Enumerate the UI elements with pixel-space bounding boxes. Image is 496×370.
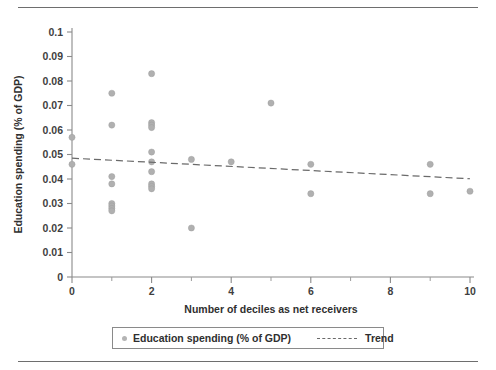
data-point xyxy=(228,159,234,165)
data-point xyxy=(427,191,433,197)
data-point xyxy=(427,161,433,167)
legend-item-education-spending: Education spending (% of GDP) xyxy=(122,328,291,348)
data-point xyxy=(188,156,194,162)
x-tick-label: 2 xyxy=(149,285,155,297)
data-point xyxy=(109,208,115,214)
y-tick-label: 0.04 xyxy=(43,173,64,185)
data-point xyxy=(109,90,115,96)
data-point xyxy=(149,186,155,192)
y-tick-label: 0.09 xyxy=(43,50,64,62)
figure-container: 00.010.020.030.040.050.060.070.080.090.1… xyxy=(0,0,496,370)
y-tick-label: 0 xyxy=(57,271,63,283)
x-tick-label: 10 xyxy=(464,285,476,297)
data-point xyxy=(69,134,75,140)
y-tick-label: 0.1 xyxy=(48,26,63,38)
legend-dot-marker-icon xyxy=(122,336,127,341)
data-point xyxy=(69,161,75,167)
y-tick-label: 0.02 xyxy=(43,222,64,234)
legend-label-education-spending: Education spending (% of GDP) xyxy=(133,332,291,344)
data-point xyxy=(149,71,155,77)
y-tick-label: 0.07 xyxy=(43,99,64,111)
y-axis-title: Education spending (% of GDP) xyxy=(12,75,24,233)
data-point xyxy=(268,100,274,106)
trend-line-layer xyxy=(72,158,470,179)
y-tick-label: 0.08 xyxy=(43,75,64,87)
data-points-layer xyxy=(69,71,473,232)
y-tick-label: 0.06 xyxy=(43,124,64,136)
data-point xyxy=(149,124,155,130)
y-tick-label: 0.03 xyxy=(43,197,64,209)
data-point xyxy=(109,122,115,128)
data-point xyxy=(149,169,155,175)
x-axis-title: Number of deciles as net receivers xyxy=(184,303,357,315)
x-tick-label: 0 xyxy=(69,285,75,297)
chart-legend: Education spending (% of GDP) Trend xyxy=(112,327,384,349)
x-tick-label: 6 xyxy=(308,285,314,297)
data-point xyxy=(149,149,155,155)
data-point xyxy=(467,188,473,194)
x-tick-label: 8 xyxy=(387,285,393,297)
x-tick-label: 4 xyxy=(228,285,234,297)
legend-item-trend: Trend xyxy=(317,328,394,348)
legend-dashed-line-icon xyxy=(317,338,357,339)
data-point xyxy=(308,191,314,197)
x-axis: 0246810 xyxy=(69,277,476,297)
y-axis: 00.010.020.030.040.050.060.070.080.090.1 xyxy=(43,26,72,283)
data-point xyxy=(188,225,194,231)
trend-line xyxy=(72,158,470,179)
scatter-plot: 00.010.020.030.040.050.060.070.080.090.1… xyxy=(0,0,496,370)
legend-label-trend: Trend xyxy=(365,332,394,344)
data-point xyxy=(109,173,115,179)
bottom-divider-rule xyxy=(18,361,478,362)
data-point xyxy=(308,161,314,167)
y-tick-label: 0.05 xyxy=(43,148,64,160)
data-point xyxy=(109,181,115,187)
y-tick-label: 0.01 xyxy=(43,246,64,258)
